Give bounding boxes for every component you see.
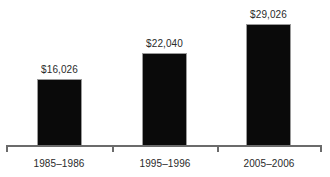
bar-value-label: $29,026	[228, 9, 309, 21]
x-axis-tick	[217, 145, 219, 152]
bar[interactable]	[246, 24, 291, 146]
bar-value-label: $22,040	[124, 38, 205, 50]
bar-value-label: $16,026	[19, 64, 100, 76]
x-axis-tick	[320, 145, 322, 152]
plot-area: $16,026 $22,040 $29,026 1985–1986 1995–1…	[0, 0, 330, 177]
bar[interactable]	[142, 53, 187, 146]
x-axis-category-label: 1985–1986	[6, 157, 112, 170]
x-axis-category-label: 1995–1996	[112, 157, 218, 170]
x-axis-category-label: 2005–2006	[216, 157, 322, 170]
x-axis-tick	[6, 145, 8, 152]
x-axis-line	[6, 145, 322, 147]
bar[interactable]	[37, 79, 82, 146]
x-axis-tick	[112, 145, 114, 152]
bar-chart: $16,026 $22,040 $29,026 1985–1986 1995–1…	[0, 0, 330, 177]
